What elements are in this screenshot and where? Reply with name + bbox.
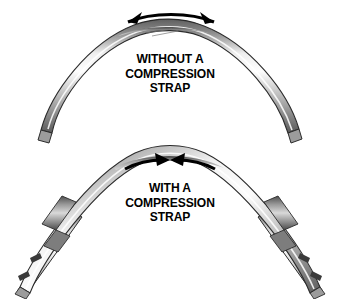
diagram-canvas [0,0,340,299]
caption-without-strap: WITHOUT A COMPRESSION STRAP [12,52,328,96]
caption-with-strap-line-2: COMPRESSION [12,196,328,211]
caption-with-strap-line-1: WITH A [12,181,328,196]
caption-without-strap-line-1: WITHOUT A [12,52,328,67]
compression-strap-diagram: WITHOUT A COMPRESSION STRAP WITH A COMPR… [0,0,340,299]
caption-without-strap-line-2: COMPRESSION [12,67,328,82]
caption-with-strap: WITH A COMPRESSION STRAP [12,181,328,225]
caption-without-strap-line-3: STRAP [12,81,328,96]
arch-leg-end-left [38,130,52,143]
strap-connector-group [18,253,322,281]
caption-with-strap-line-3: STRAP [12,210,328,225]
